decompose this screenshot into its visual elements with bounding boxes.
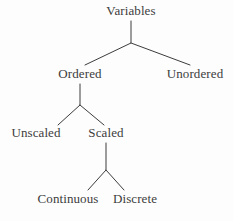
edge-scaled-discrete [106,170,124,190]
node-unordered: Unordered [167,67,224,81]
node-variables: Variables [106,4,155,18]
tree-edges [0,0,233,221]
edge-ordered-scaled [80,105,104,125]
node-scaled: Scaled [88,126,123,140]
node-discrete: Discrete [113,192,157,206]
node-ordered: Ordered [58,67,101,81]
edge-variables-ordered [85,21,131,65]
edge-scaled-continuous [88,143,106,190]
node-unscaled: Unscaled [11,126,60,140]
node-continuous: Continuous [38,192,99,206]
edge-ordered-unscaled [58,84,80,125]
variables-tree-diagram: Variables Ordered Unordered Unscaled Sca… [0,0,233,221]
edge-variables-unordered [131,43,190,65]
